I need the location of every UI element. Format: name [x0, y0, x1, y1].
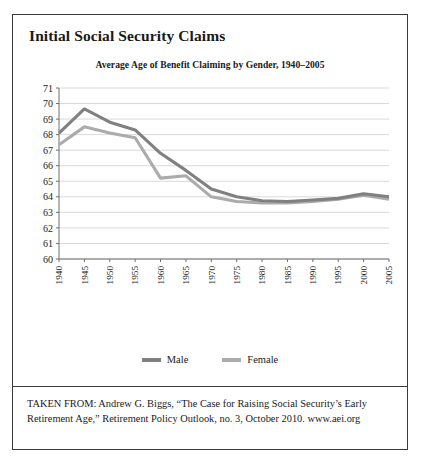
- figure-title: Initial Social Security Claims: [29, 27, 225, 45]
- chart-plot-area: 606162636465666768697071 194019451950195…: [29, 83, 393, 321]
- chart-subtitle: Average Age of Benefit Claiming by Gende…: [13, 59, 407, 70]
- x-tick-label: 1990: [308, 266, 318, 285]
- legend-swatch-icon: [142, 358, 161, 362]
- y-axis-group: 606162636465666768697071: [43, 83, 59, 265]
- x-tick-label: 1980: [257, 266, 267, 285]
- y-tick-label: 71: [43, 83, 53, 94]
- x-axis-group: [59, 259, 389, 262]
- y-tick-label: 67: [43, 145, 53, 156]
- x-tick-label: 1955: [130, 266, 140, 285]
- x-tick-label: 1945: [80, 266, 90, 285]
- line-chart-svg: 606162636465666768697071 194019451950195…: [29, 83, 393, 321]
- legend-label: Male: [167, 355, 189, 366]
- chart-legend: MaleFemale: [13, 355, 407, 366]
- y-tick-label: 70: [43, 98, 53, 109]
- series-line-male: [59, 109, 389, 201]
- x-tick-label: 1960: [156, 266, 166, 285]
- x-tick-label: 1975: [232, 266, 242, 285]
- legend-swatch-icon: [222, 358, 241, 362]
- x-tick-label: 1970: [207, 266, 217, 285]
- y-tick-label: 69: [43, 114, 53, 125]
- y-tick-label: 68: [43, 129, 53, 140]
- x-tick-label: 1950: [105, 266, 115, 285]
- source-divider: [13, 386, 407, 387]
- x-tick-label: 2005: [384, 266, 393, 285]
- x-tick-label: 1940: [54, 266, 64, 285]
- figure-container: Initial Social Security Claims Average A…: [12, 14, 408, 450]
- y-tick-label: 66: [43, 160, 53, 171]
- y-tick-label: 64: [43, 191, 53, 202]
- y-tick-label: 65: [43, 176, 53, 187]
- y-tick-label: 60: [43, 254, 53, 265]
- data-series-group: [59, 109, 389, 203]
- x-tick-label: 1965: [181, 266, 191, 285]
- legend-label: Female: [247, 355, 278, 366]
- legend-item-male[interactable]: Male: [142, 355, 189, 366]
- x-tick-labels-group: 1940194519501955196019651970197519801985…: [54, 266, 393, 285]
- source-note: TAKEN FROM: Andrew G. Biggs, “The Case f…: [27, 396, 391, 427]
- x-tick-label: 1995: [333, 266, 343, 285]
- y-tick-label: 61: [43, 238, 53, 249]
- gridlines-group: [59, 88, 389, 259]
- x-tick-label: 1985: [283, 266, 293, 285]
- legend-item-female[interactable]: Female: [222, 355, 278, 366]
- y-tick-label: 63: [43, 207, 53, 218]
- x-tick-label: 2000: [359, 266, 369, 285]
- y-tick-label: 62: [43, 223, 53, 234]
